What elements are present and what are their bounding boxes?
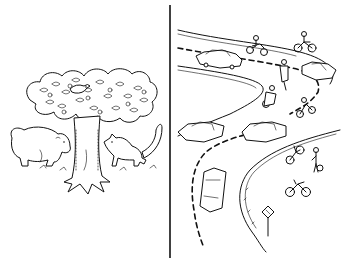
motorcycle-3 <box>263 86 277 108</box>
fox <box>104 124 162 166</box>
car-3 <box>178 122 224 142</box>
motorcycle-4 <box>297 98 316 118</box>
bicycle-1 <box>294 32 316 53</box>
car-4 <box>242 122 286 142</box>
illustration <box>0 0 347 264</box>
illustration-canvas <box>0 0 347 264</box>
road-sign <box>262 206 274 236</box>
car-2 <box>302 62 336 80</box>
bicycle-2 <box>286 146 304 164</box>
bear <box>11 127 70 166</box>
pedestrian <box>312 148 323 173</box>
car-1 <box>196 50 242 69</box>
tree-trunk <box>64 116 110 194</box>
motorcycle-2 <box>280 60 288 91</box>
car-5 <box>200 168 226 212</box>
bicycle-3 <box>286 180 311 197</box>
tree-canopy <box>27 69 157 123</box>
